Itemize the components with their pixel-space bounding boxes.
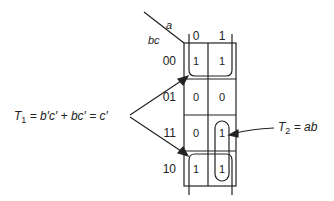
row-label-00: 00 (163, 54, 177, 68)
t2-annotation: T2 = ab (278, 120, 318, 136)
cell-11-1: 1 (219, 127, 225, 139)
cell-11-0: 0 (193, 127, 199, 139)
row-label-10: 10 (163, 162, 177, 176)
cell-10-1: 1 (219, 163, 225, 175)
row-label-11: 11 (164, 126, 177, 140)
cell-01-0: 0 (193, 91, 199, 103)
cell-01-1: 0 (219, 91, 225, 103)
col-label-0: 0 (193, 29, 200, 43)
cell-00-1: 1 (219, 55, 225, 67)
t1-arrows (130, 76, 188, 156)
col-label-1: 1 (219, 29, 226, 43)
karnaugh-map-diagram: a bc 0 1 00 01 11 10 1 1 0 0 0 1 1 1 T1 … (0, 0, 334, 201)
kmap-grid (184, 34, 236, 195)
col-variable-label: a (166, 19, 172, 31)
cell-00-0: 1 (193, 55, 199, 67)
t1-annotation: T1 = b′c′ + bc′ = c′ (14, 109, 108, 125)
cell-10-0: 1 (193, 163, 199, 175)
row-variable-label: bc (148, 34, 160, 46)
